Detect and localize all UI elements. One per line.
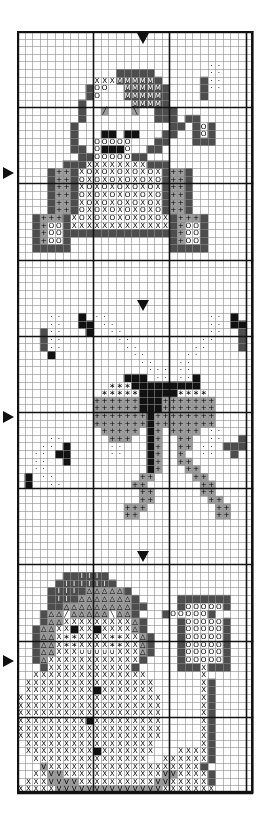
pattern-page: Cross Stitch Pattern Chart bbox=[0, 0, 277, 836]
center-marker-top bbox=[137, 33, 149, 44]
center-marker-bear bbox=[3, 167, 14, 179]
center-marker-bow-top bbox=[137, 300, 149, 311]
center-marker-snowman bbox=[3, 655, 14, 667]
center-marker-snowman-top bbox=[137, 551, 149, 562]
cross-stitch-chart[interactable] bbox=[17, 31, 258, 810]
center-marker-bow bbox=[3, 411, 14, 423]
pattern-grid-canvas[interactable] bbox=[17, 31, 258, 810]
